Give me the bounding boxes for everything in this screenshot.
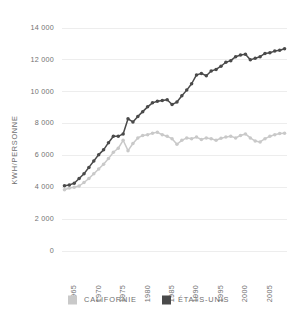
data-point bbox=[283, 131, 287, 135]
data-point bbox=[97, 167, 101, 171]
data-point bbox=[239, 134, 243, 138]
y-tick-label: 6 000 bbox=[35, 150, 54, 159]
data-point bbox=[234, 136, 238, 140]
data-point bbox=[112, 135, 116, 139]
data-point bbox=[185, 88, 189, 92]
series-etats-unis bbox=[63, 47, 287, 187]
data-point bbox=[126, 117, 130, 121]
data-point bbox=[283, 47, 287, 51]
data-point bbox=[205, 136, 209, 140]
data-point bbox=[161, 99, 165, 103]
data-point bbox=[229, 135, 233, 139]
legend-label: ÉTATS-UNIS bbox=[178, 295, 229, 304]
data-point bbox=[72, 182, 76, 186]
data-point bbox=[82, 172, 86, 176]
data-point bbox=[175, 143, 179, 147]
y-tick-label: 8 000 bbox=[35, 118, 54, 127]
data-point bbox=[273, 133, 277, 137]
data-point bbox=[244, 53, 248, 57]
data-point bbox=[249, 58, 253, 62]
data-point bbox=[253, 57, 257, 61]
data-point bbox=[170, 137, 174, 141]
legend-swatch bbox=[162, 296, 171, 305]
data-point bbox=[72, 186, 76, 190]
data-point bbox=[87, 177, 91, 181]
data-point bbox=[219, 64, 223, 68]
data-point bbox=[146, 133, 150, 137]
data-point bbox=[165, 98, 169, 102]
data-point bbox=[263, 52, 267, 56]
data-point bbox=[156, 131, 160, 135]
data-point bbox=[185, 136, 189, 140]
data-point bbox=[214, 139, 218, 143]
data-point bbox=[195, 135, 199, 139]
data-point bbox=[92, 159, 96, 163]
line-chart: 02 0004 0006 0008 00010 00012 00014 000 … bbox=[0, 0, 298, 325]
data-point bbox=[205, 74, 209, 78]
data-point bbox=[200, 72, 204, 76]
data-point bbox=[239, 53, 243, 57]
data-point bbox=[151, 101, 155, 105]
data-point bbox=[82, 181, 86, 185]
data-point bbox=[190, 137, 194, 141]
data-point bbox=[268, 51, 272, 55]
data-point bbox=[170, 103, 174, 107]
data-point bbox=[136, 115, 140, 119]
data-point bbox=[63, 184, 67, 188]
data-point bbox=[263, 137, 267, 141]
data-point bbox=[165, 135, 169, 139]
data-point bbox=[224, 61, 228, 65]
data-point bbox=[156, 100, 160, 104]
data-point bbox=[136, 136, 140, 140]
data-point bbox=[117, 147, 121, 151]
data-point bbox=[107, 141, 111, 145]
legend-item-californie[interactable]: CALIFORNIE bbox=[68, 295, 137, 304]
data-point bbox=[63, 188, 67, 192]
data-point bbox=[209, 137, 213, 141]
data-point bbox=[190, 82, 194, 86]
x-tick-label: 2000 bbox=[240, 285, 249, 302]
data-point bbox=[141, 110, 145, 114]
x-tick-label: 1980 bbox=[143, 285, 152, 302]
data-point bbox=[68, 186, 72, 190]
data-point bbox=[244, 132, 248, 136]
data-point bbox=[146, 105, 150, 109]
y-axis-title: KWH/PERSONNE bbox=[10, 115, 19, 184]
data-point bbox=[258, 55, 262, 59]
data-point bbox=[273, 49, 277, 53]
chart-container: 02 0004 0006 0008 00010 00012 00014 000 … bbox=[0, 0, 298, 325]
data-point bbox=[121, 139, 125, 143]
data-point bbox=[131, 120, 135, 124]
y-tick-label: 12 000 bbox=[31, 55, 54, 64]
data-point bbox=[112, 150, 116, 154]
data-point bbox=[175, 100, 179, 104]
data-point bbox=[229, 59, 233, 63]
data-point bbox=[141, 134, 145, 138]
data-point bbox=[92, 172, 96, 176]
data-point bbox=[180, 139, 184, 143]
data-point bbox=[209, 69, 213, 73]
data-point bbox=[268, 135, 272, 139]
series-line bbox=[64, 132, 284, 189]
data-point bbox=[126, 149, 130, 153]
y-tick-label: 14 000 bbox=[31, 23, 54, 32]
data-point bbox=[107, 157, 111, 161]
y-tick-label: 2 000 bbox=[35, 214, 54, 223]
data-point bbox=[195, 73, 199, 77]
data-point bbox=[180, 94, 184, 98]
x-tick-label: 2005 bbox=[265, 285, 274, 302]
data-point bbox=[200, 138, 204, 142]
data-point bbox=[97, 153, 101, 157]
data-point bbox=[87, 166, 91, 170]
data-series-group bbox=[63, 47, 287, 191]
data-point bbox=[117, 135, 121, 139]
data-point bbox=[102, 162, 106, 166]
series-californie bbox=[63, 131, 287, 192]
legend-label: CALIFORNIE bbox=[84, 295, 137, 304]
data-point bbox=[219, 136, 223, 140]
data-point bbox=[224, 135, 228, 139]
data-point bbox=[151, 131, 155, 135]
data-point bbox=[278, 49, 282, 53]
y-axis-tick-labels: 02 0004 0006 0008 00010 00012 00014 000 bbox=[31, 23, 54, 255]
data-point bbox=[214, 68, 218, 72]
